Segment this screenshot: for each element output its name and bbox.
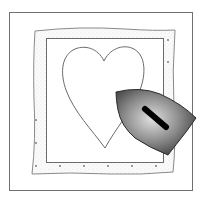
quilt-iron-illustration [0,0,204,199]
